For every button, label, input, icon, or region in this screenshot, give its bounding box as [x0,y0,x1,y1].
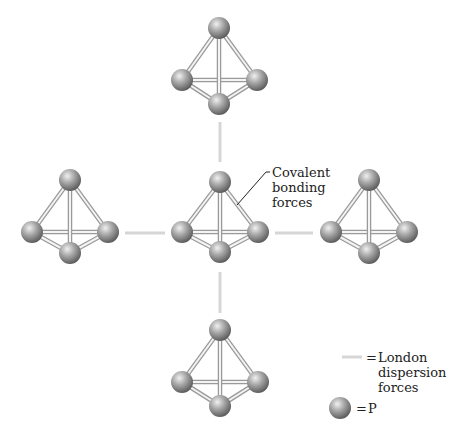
legend-atom-label: P [368,401,377,416]
phosphorus-atom [208,17,230,39]
phosphorus-atom [247,221,269,243]
p4-molecule-top [171,17,268,115]
legend: = London dispersion forces = P [329,350,447,419]
phosphorus-atom [208,93,230,115]
p4-molecule-left [21,169,119,264]
phosphorus-atom [171,221,193,243]
phosphorus-atom [59,169,81,191]
phosphorus-atom [358,242,380,264]
phosphorus-atom [21,221,43,243]
legend-dispersion-equals: = [366,350,377,365]
phosphorus-atom [396,221,418,243]
phosphorus-atom [209,395,231,417]
legend-phosphorus-atom-icon [329,397,351,419]
phosphorus-atom [59,242,81,264]
annotation-line-1: Covalent [272,165,331,180]
phosphorus-atom [358,169,380,191]
annotation-line-3: forces [272,195,313,210]
phosphorus-atom [171,371,193,393]
legend-dispersion-line-3: forces [378,380,419,395]
phosphorus-atom [247,371,269,393]
phosphorus-atom [209,319,231,341]
annotation-line-2: bonding [272,180,326,195]
legend-dispersion-line-1: London [378,350,428,365]
phosphorus-atom [209,241,231,263]
phosphorus-atom [320,221,342,243]
annotation-leader-line [237,172,270,205]
p4-molecule-right [320,169,418,264]
phosphorus-atom [97,221,119,243]
phosphorus-atom [209,171,231,193]
covalent-bonding-annotation: Covalent bonding forces [237,165,331,210]
diagram: Covalent bonding forces = London dispers… [0,0,457,442]
legend-atom-equals: = [356,401,367,416]
p4-molecule-bottom [171,319,269,417]
legend-dispersion-line-2: dispersion [378,365,447,380]
phosphorus-atom [246,69,268,91]
p4-molecules-diagram: Covalent bonding forces = London dispers… [0,0,457,442]
phosphorus-atom [171,69,193,91]
